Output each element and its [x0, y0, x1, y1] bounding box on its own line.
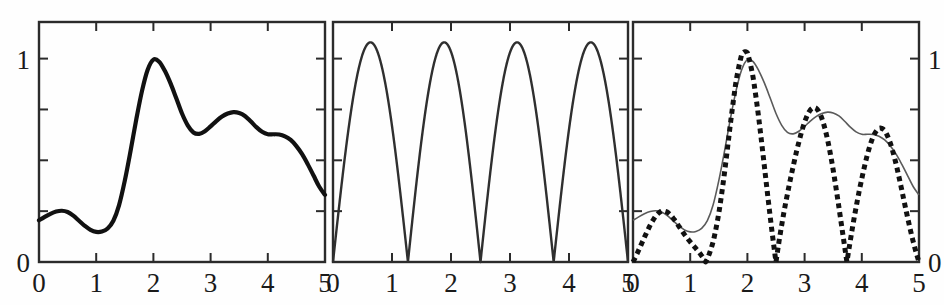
ytick-label-left-1: 1	[17, 45, 31, 75]
xtick-label-middle-2: 2	[444, 268, 458, 298]
xtick-label-right-5: 5	[912, 268, 926, 298]
xtick-label-middle-0: 0	[326, 268, 340, 298]
ytick-label-left-0: 0	[17, 248, 31, 278]
curve-envelope-reference-right	[633, 59, 919, 232]
xtick-label-left-3: 3	[204, 268, 218, 298]
xtick-label-left-0: 0	[32, 268, 46, 298]
xtick-label-right-4: 4	[855, 268, 869, 298]
curve-envelope-left	[39, 59, 325, 232]
xtick-label-left-4: 4	[261, 268, 275, 298]
xtick-label-middle-4: 4	[562, 268, 576, 298]
three-panel-figure: 0123450101234501234501	[0, 0, 944, 305]
curve-modulated-product-right	[633, 52, 919, 262]
xtick-label-right-2: 2	[741, 268, 755, 298]
ytick-label-right-0: 0	[928, 248, 942, 278]
curve-carrier-middle	[333, 42, 628, 262]
figure-canvas: 0123450101234501234501	[0, 0, 944, 305]
panel-left: 01234501	[17, 22, 332, 298]
xtick-label-right-0: 0	[626, 268, 640, 298]
xtick-label-right-3: 3	[798, 268, 812, 298]
xtick-label-middle-1: 1	[385, 268, 399, 298]
xtick-label-left-1: 1	[89, 268, 103, 298]
xtick-label-left-2: 2	[147, 268, 161, 298]
panel-frame-middle	[333, 22, 628, 262]
xtick-label-right-1: 1	[683, 268, 697, 298]
xtick-label-middle-3: 3	[503, 268, 517, 298]
ytick-label-right-1: 1	[928, 45, 942, 75]
